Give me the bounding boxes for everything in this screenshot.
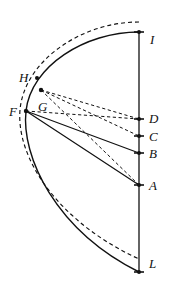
point-c-dot <box>137 134 141 138</box>
point-b-dot <box>137 151 141 155</box>
solid-arc <box>26 32 139 272</box>
label-l: L <box>148 256 156 271</box>
label-d: D <box>148 111 159 126</box>
point-g-dot <box>39 88 43 92</box>
label-f: F <box>8 104 18 119</box>
geometry-figure: I H G F D C B A L <box>0 0 173 297</box>
point-f-dot <box>24 109 28 113</box>
label-h: H <box>18 70 29 85</box>
label-g: G <box>38 99 48 114</box>
segment-g-a <box>41 90 139 185</box>
label-c: C <box>149 129 158 144</box>
point-d-dot <box>137 117 141 121</box>
label-a: A <box>148 178 157 193</box>
segment-g-d <box>41 90 139 119</box>
figure-canvas: I H G F D C B A L <box>0 0 173 297</box>
point-l-dot <box>137 270 141 274</box>
point-h-dot <box>35 76 39 80</box>
segment-f-a <box>26 111 139 185</box>
point-i-dot <box>137 30 141 34</box>
dashed-arc <box>20 22 139 259</box>
label-b: B <box>149 146 157 161</box>
segment-f-b <box>26 111 139 153</box>
point-a-dot <box>137 183 141 187</box>
label-i: I <box>149 32 155 47</box>
